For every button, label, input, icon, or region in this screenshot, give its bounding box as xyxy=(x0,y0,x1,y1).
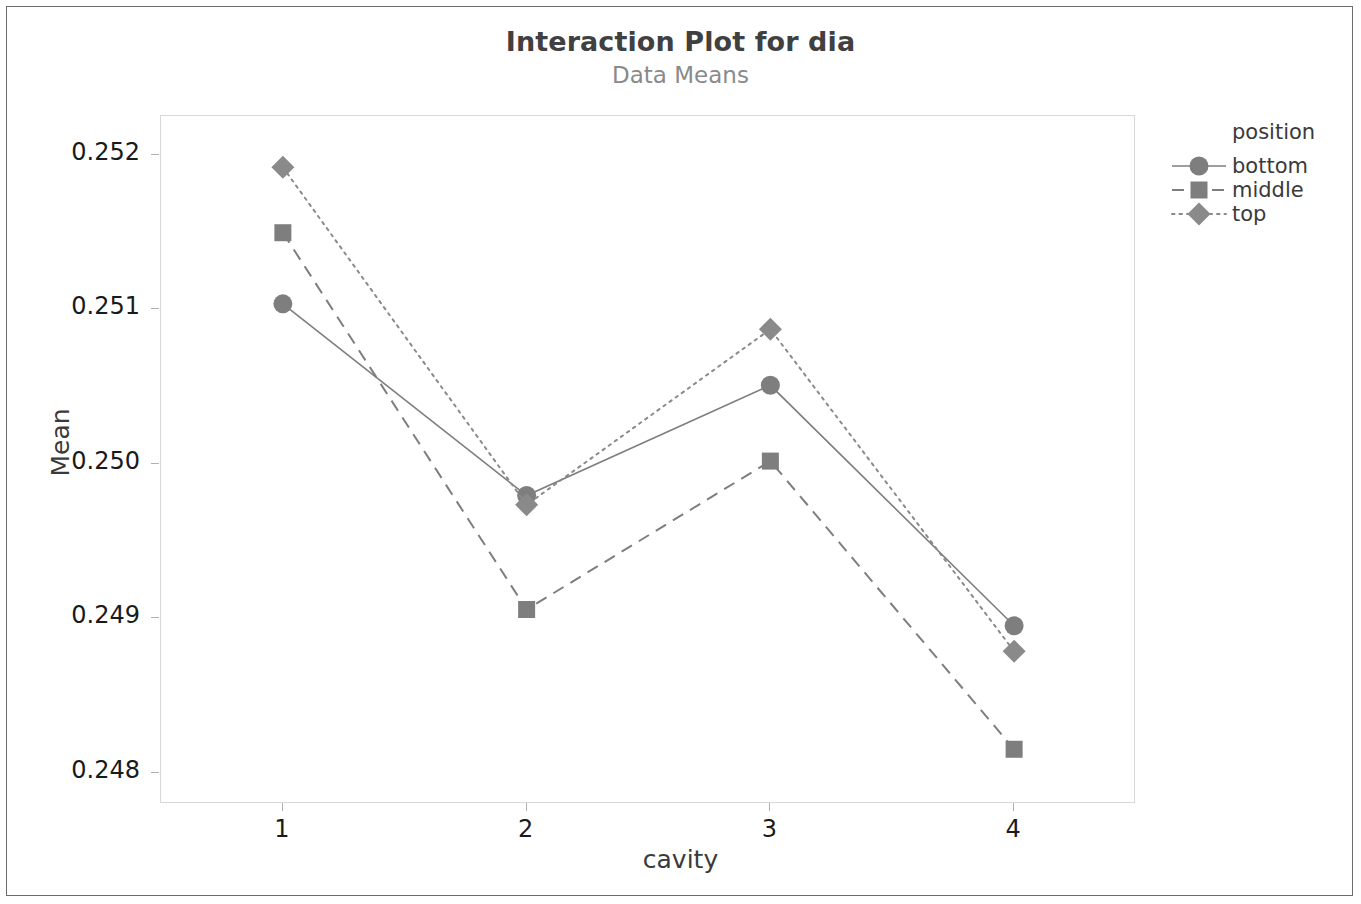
legend-item-top[interactable]: top xyxy=(1170,202,1350,226)
legend-label-top: top xyxy=(1232,202,1266,226)
series-marker-bottom-1 xyxy=(273,294,292,313)
interaction-plot-figure: Interaction Plot for dia Data Means Mean… xyxy=(0,0,1361,904)
series-marker-top-3 xyxy=(759,318,782,341)
y-tick-mark xyxy=(151,463,159,464)
series-marker-bottom-3 xyxy=(761,376,780,395)
chart-title: Interaction Plot for dia xyxy=(0,26,1361,57)
legend-marker-bottom xyxy=(1190,157,1209,176)
x-tick-label: 2 xyxy=(496,815,556,843)
plot-series-svg xyxy=(161,116,1136,804)
y-tick-mark xyxy=(151,617,159,618)
series-marker-top-4 xyxy=(1003,640,1026,663)
legend-label-bottom: bottom xyxy=(1232,154,1308,178)
x-tick-mark xyxy=(769,803,770,811)
plot-panel xyxy=(160,115,1135,803)
series-marker-top-1 xyxy=(271,156,294,179)
y-tick-label: 0.248 xyxy=(30,756,140,784)
series-marker-middle-1 xyxy=(274,224,291,241)
y-tick-mark xyxy=(151,772,159,773)
legend-key-circle-icon xyxy=(1170,154,1228,178)
x-tick-mark xyxy=(282,803,283,811)
series-marker-bottom-4 xyxy=(1005,616,1024,635)
series-marker-middle-2 xyxy=(518,601,535,618)
x-tick-mark xyxy=(1013,803,1014,811)
x-tick-label: 3 xyxy=(739,815,799,843)
series-line-middle xyxy=(283,233,1014,750)
x-axis-title: cavity xyxy=(0,845,1361,874)
legend-key-diamond-icon xyxy=(1170,202,1228,226)
series-line-top xyxy=(283,167,1014,651)
x-tick-label: 1 xyxy=(252,815,312,843)
y-tick-label: 0.251 xyxy=(30,292,140,320)
y-tick-mark xyxy=(151,308,159,309)
y-tick-label: 0.250 xyxy=(30,447,140,475)
legend-marker-top xyxy=(1188,203,1211,226)
legend-label-middle: middle xyxy=(1232,178,1304,202)
y-axis-title: Mean xyxy=(46,373,75,513)
x-tick-label: 4 xyxy=(983,815,1043,843)
x-tick-mark xyxy=(526,803,527,811)
series-marker-middle-3 xyxy=(762,453,779,470)
chart-subtitle: Data Means xyxy=(0,62,1361,88)
legend-item-middle[interactable]: middle xyxy=(1170,178,1350,202)
y-tick-mark xyxy=(151,154,159,155)
legend-marker-middle xyxy=(1191,182,1208,199)
y-tick-label: 0.252 xyxy=(30,138,140,166)
series-line-bottom xyxy=(283,304,1014,626)
legend-key-square-icon xyxy=(1170,178,1228,202)
y-tick-label: 0.249 xyxy=(30,601,140,629)
series-marker-middle-4 xyxy=(1006,741,1023,758)
legend-title: position xyxy=(1232,120,1315,144)
legend-item-bottom[interactable]: bottom xyxy=(1170,154,1350,178)
